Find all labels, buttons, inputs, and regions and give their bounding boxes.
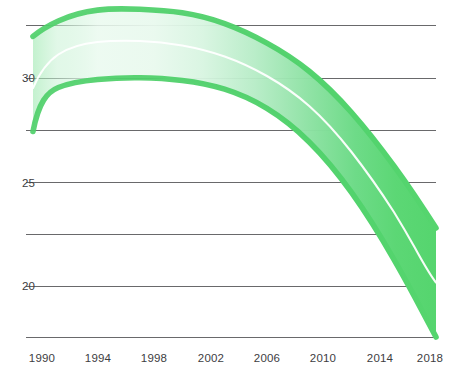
- x-tick-label-2002: 2002: [198, 352, 224, 364]
- y-tick-label-20: 20: [22, 280, 35, 292]
- x-tick-label-2010: 2010: [310, 352, 336, 364]
- x-tick-label-2014: 2014: [367, 352, 394, 364]
- x-tick-label-2018: 2018: [417, 352, 443, 364]
- uncertainty-band-chart: 30 25 20 1990 1994 1998 2002 2006 2010 2…: [0, 0, 460, 387]
- x-tick-label-1994: 1994: [85, 352, 112, 364]
- y-tick-label-25: 25: [22, 177, 35, 189]
- x-tick-label-1990: 1990: [29, 352, 55, 364]
- uncertainty-band-area: [33, 9, 436, 337]
- x-tick-label-2006: 2006: [254, 352, 280, 364]
- y-tick-label-30: 30: [22, 72, 35, 84]
- x-tick-label-1998: 1998: [141, 352, 167, 364]
- chart-container: 30 25 20 1990 1994 1998 2002 2006 2010 2…: [0, 0, 460, 387]
- x-axis-labels: 1990 1994 1998 2002 2006 2010 2014 2018: [29, 352, 443, 364]
